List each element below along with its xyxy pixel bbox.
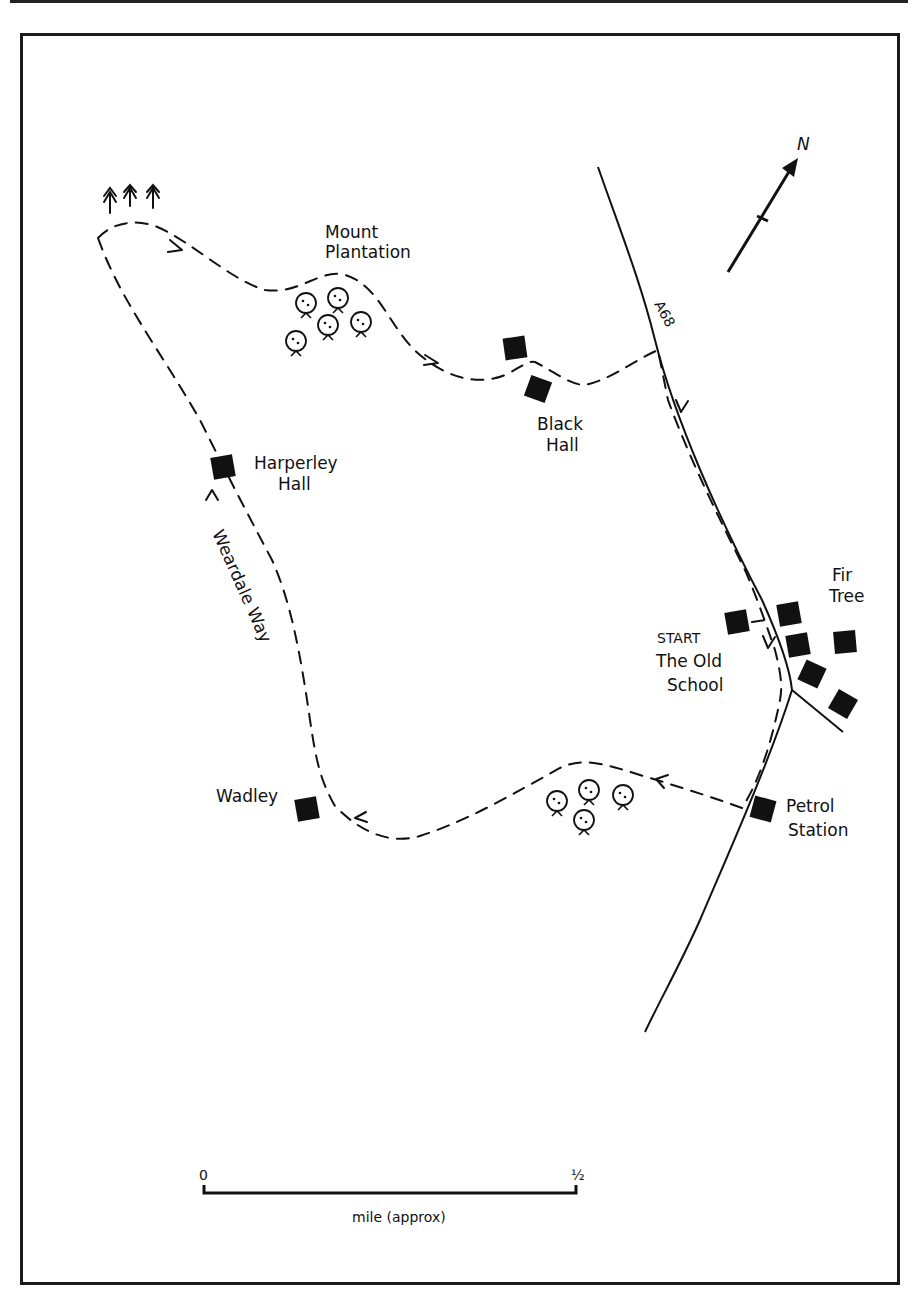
label-school: School (667, 675, 723, 695)
deciduous-tree-icon (547, 780, 633, 835)
label-station: Station (788, 820, 848, 840)
building-icon (210, 336, 858, 823)
label-petrol: Petrol (786, 796, 835, 816)
north-arrow-icon: N (728, 134, 810, 272)
label-black: Black (537, 414, 583, 434)
label-harperley: Harperley (254, 453, 338, 473)
deciduous-tree-icon (286, 288, 371, 356)
route-spur (752, 620, 765, 622)
scale-end-label: ½ (571, 1167, 585, 1183)
scale-bar: 0 ½ mile (approx) (199, 1167, 585, 1225)
label-weardale-way: Weardale Way (208, 526, 276, 645)
label-a68: A68 (651, 298, 678, 330)
label-start: START (657, 630, 701, 646)
label-wadley: Wadley (216, 786, 278, 806)
north-label: N (797, 134, 810, 154)
label-plantation: Plantation (325, 242, 411, 262)
conifer-tree-icon (104, 185, 159, 213)
walk-map: N Mount Plantation A68 Black Hall Harper… (0, 0, 919, 1305)
label-mount: Mount (325, 222, 379, 242)
label-fir: Fir (832, 565, 852, 585)
label-hall: Hall (546, 435, 579, 455)
road-a68 (598, 167, 843, 1032)
walking-route (98, 223, 781, 839)
label-tree: Tree (828, 586, 864, 606)
scale-start-label: 0 (199, 1167, 208, 1183)
route-direction-arrow-icon (168, 240, 775, 822)
label-the-old: The Old (655, 651, 722, 671)
label-harperley-hall: Hall (278, 474, 311, 494)
scale-unit-label: mile (approx) (352, 1209, 446, 1225)
